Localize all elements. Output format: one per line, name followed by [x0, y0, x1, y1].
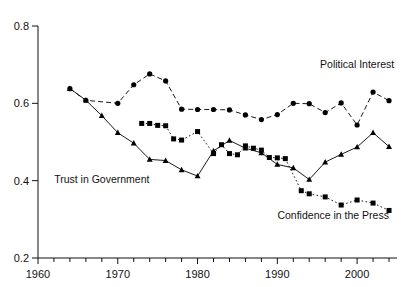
- data-point-marker: [251, 146, 256, 151]
- data-point-marker: [139, 121, 144, 126]
- data-point-marker: [339, 203, 344, 208]
- data-point-marker: [275, 155, 280, 160]
- data-point-marker: [243, 143, 248, 148]
- data-point-marker: [195, 129, 200, 134]
- data-point-marker: [179, 107, 184, 112]
- data-point-marker: [211, 107, 216, 112]
- x-axis-tick-label: 1970: [106, 268, 130, 280]
- y-axis-tick-label: 0.6: [14, 97, 29, 109]
- data-point-marker: [283, 156, 288, 161]
- y-axis-tick-label: 0.4: [14, 175, 29, 187]
- data-point-marker: [267, 155, 272, 160]
- line-chart: 0.20.40.60.8 19601970198019902000 Politi…: [0, 0, 402, 287]
- data-point-marker: [323, 194, 328, 199]
- data-point-marker: [163, 78, 168, 83]
- series-annotation-confidence-in-the-press: Confidence in the Press: [277, 209, 388, 221]
- data-point-marker: [299, 188, 304, 193]
- data-point-marker: [355, 122, 360, 127]
- data-point-marker: [211, 151, 216, 156]
- data-point-marker: [291, 101, 296, 106]
- x-axis-tick-label: 1990: [265, 268, 289, 280]
- data-point-marker: [259, 148, 264, 153]
- x-axis-tick-label: 1980: [185, 268, 209, 280]
- data-point-marker: [219, 142, 224, 147]
- data-point-marker: [275, 112, 280, 117]
- data-point-marker: [307, 101, 312, 106]
- x-axis-tick-label: 2000: [345, 268, 369, 280]
- data-point-marker: [155, 123, 160, 128]
- data-point-marker: [355, 198, 360, 203]
- data-point-marker: [243, 112, 248, 117]
- data-point-marker: [259, 117, 264, 122]
- x-axis-tick-label: 1960: [26, 268, 50, 280]
- data-point-marker: [227, 107, 232, 112]
- series-annotation-trust-in-government: Trust in Government: [54, 173, 149, 185]
- data-point-marker: [147, 71, 152, 76]
- data-point-marker: [339, 100, 344, 105]
- data-point-marker: [195, 107, 200, 112]
- data-point-marker: [227, 151, 232, 156]
- data-point-marker: [323, 110, 328, 115]
- data-point-marker: [371, 201, 376, 206]
- series-annotation-political-interest: Political Interest: [320, 58, 394, 70]
- y-axis-tick-label: 0.8: [14, 20, 29, 32]
- data-point-marker: [386, 98, 391, 103]
- data-point-marker: [235, 152, 240, 157]
- data-point-marker: [370, 90, 375, 95]
- data-point-marker: [179, 138, 184, 143]
- data-point-marker: [115, 101, 120, 106]
- data-point-marker: [131, 82, 136, 87]
- data-point-marker: [163, 123, 168, 128]
- chart-container: 0.20.40.60.8 19601970198019902000 Politi…: [0, 0, 402, 287]
- data-point-marker: [307, 191, 312, 196]
- data-point-marker: [147, 121, 152, 126]
- plot-background: [0, 0, 402, 287]
- y-axis-tick-label: 0.2: [14, 252, 29, 264]
- data-point-marker: [171, 136, 176, 141]
